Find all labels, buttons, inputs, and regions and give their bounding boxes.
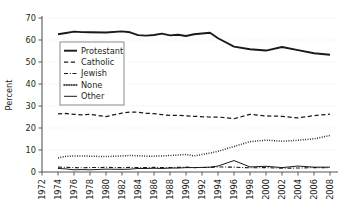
y-tick-label: 60 — [26, 35, 36, 45]
chart-canvas: 010203040506070 197219741976197819801982… — [0, 0, 344, 210]
x-tick-label: 1974 — [53, 179, 63, 200]
religious-affiliation-line-chart: 010203040506070 197219741976197819801982… — [0, 0, 344, 210]
x-tick-label: 1986 — [149, 179, 159, 200]
x-tick-label: 1990 — [181, 179, 191, 200]
series-line-catholic — [58, 112, 330, 119]
y-axis-title: Percent — [4, 79, 14, 111]
x-tick-label: 1996 — [229, 179, 239, 200]
y-tick-label: 30 — [26, 101, 36, 111]
x-tick-label: 1994 — [213, 179, 223, 200]
y-axis-ticks: 010203040506070 — [26, 13, 42, 177]
series-line-none — [58, 135, 330, 157]
x-tick-label: 1992 — [197, 179, 207, 200]
y-tick-label: 10 — [26, 145, 36, 155]
y-tick-label: 40 — [26, 79, 36, 89]
y-tick-label: 20 — [26, 123, 36, 133]
x-tick-label: 1976 — [69, 179, 79, 200]
x-tick-label: 2004 — [293, 179, 303, 200]
chart-legend[interactable]: ProtestantCatholicJewishNoneOther — [60, 42, 124, 105]
y-axis-label: Percent — [4, 79, 14, 111]
x-tick-label: 1972 — [37, 179, 47, 200]
x-tick-label: 2006 — [309, 179, 319, 200]
legend-label-catholic: Catholic — [81, 57, 114, 67]
x-tick-label: 1982 — [117, 179, 127, 200]
x-tick-label: 1988 — [165, 179, 175, 200]
x-tick-label: 1984 — [133, 179, 143, 200]
legend-label-other: Other — [81, 91, 105, 101]
x-axis-ticks: 1972197419761978198019821984198619881990… — [37, 172, 335, 200]
y-tick-label: 50 — [26, 57, 36, 67]
legend-label-protestant: Protestant — [81, 46, 124, 56]
y-tick-label: 70 — [26, 13, 36, 23]
x-tick-label: 2000 — [261, 179, 271, 200]
x-tick-label: 2008 — [325, 179, 335, 200]
legend-label-jewish: Jewish — [80, 68, 107, 78]
x-tick-label: 2002 — [277, 179, 287, 200]
y-tick-label: 0 — [31, 167, 36, 177]
x-tick-label: 1980 — [101, 179, 111, 200]
x-tick-label: 1998 — [245, 179, 255, 200]
x-tick-label: 1978 — [85, 179, 95, 200]
legend-label-none: None — [81, 80, 102, 90]
